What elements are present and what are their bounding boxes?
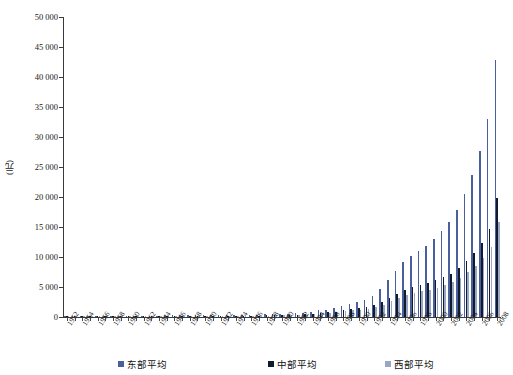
x-tick-mark xyxy=(105,318,106,321)
x-tick-mark xyxy=(213,318,214,321)
x-tick-mark xyxy=(489,318,490,321)
y-tick-label: 30 000 xyxy=(35,133,58,141)
y-tick-label: 0 xyxy=(54,313,58,321)
legend-item[interactable]: 东部平均 xyxy=(118,357,167,371)
x-tick-mark xyxy=(305,318,306,321)
y-tick-mark xyxy=(59,197,64,198)
x-tick-mark xyxy=(182,318,183,321)
y-tick-label: 15 000 xyxy=(35,223,58,231)
x-tick-mark xyxy=(367,318,368,321)
bar xyxy=(483,258,485,317)
x-tick-mark xyxy=(351,318,352,321)
plot-area xyxy=(63,17,501,317)
y-tick-mark xyxy=(59,107,64,108)
chart-legend: 东部平均中部平均西部平均 xyxy=(0,355,513,371)
y-tick-mark xyxy=(59,137,64,138)
x-tick-mark xyxy=(121,318,122,321)
y-tick-label: 25 000 xyxy=(35,163,58,171)
x-tick-mark xyxy=(443,318,444,321)
x-tick-mark xyxy=(197,318,198,321)
legend-label: 中部平均 xyxy=(277,357,317,371)
x-tick-mark xyxy=(382,318,383,321)
x-tick-mark xyxy=(320,318,321,321)
bar xyxy=(498,222,500,317)
y-tick-mark xyxy=(59,167,64,168)
legend-swatch-icon xyxy=(268,361,274,367)
x-tick-mark xyxy=(413,318,414,321)
x-tick-mark xyxy=(474,318,475,321)
y-tick-mark xyxy=(59,77,64,78)
x-tick-mark xyxy=(397,318,398,321)
x-tick-mark xyxy=(274,318,275,321)
legend-swatch-icon xyxy=(385,361,391,367)
bar xyxy=(467,272,469,317)
y-tick-label: 50 000 xyxy=(35,13,58,21)
y-tick-mark xyxy=(59,257,64,258)
legend-label: 西部平均 xyxy=(394,357,434,371)
x-tick-mark xyxy=(167,318,168,321)
x-tick-mark xyxy=(459,318,460,321)
y-tick-label: 40 000 xyxy=(35,73,58,81)
y-tick-mark xyxy=(59,317,64,318)
y-tick-label: 20 000 xyxy=(35,193,58,201)
legend-label: 东部平均 xyxy=(127,357,167,371)
x-tick-mark xyxy=(228,318,229,321)
bar xyxy=(452,282,454,317)
legend-item[interactable]: 西部平均 xyxy=(385,357,434,371)
x-tick-mark xyxy=(151,318,152,321)
bar xyxy=(475,266,477,317)
x-tick-mark xyxy=(428,318,429,321)
x-tick-mark xyxy=(336,318,337,321)
y-axis-ticks: 05 00010 00015 00020 00025 00030 00035 0… xyxy=(0,0,58,375)
x-tick-mark xyxy=(75,318,76,321)
x-tick-mark xyxy=(290,318,291,321)
bar xyxy=(437,288,439,317)
bar-chart: (元) 05 00010 00015 00020 00025 00030 000… xyxy=(0,0,513,375)
y-tick-label: 10 000 xyxy=(35,253,58,261)
y-tick-label: 45 000 xyxy=(35,43,58,51)
y-tick-mark xyxy=(59,287,64,288)
legend-swatch-icon xyxy=(118,361,124,367)
y-tick-mark xyxy=(59,17,64,18)
bar xyxy=(491,247,493,317)
y-tick-label: 5 000 xyxy=(39,283,58,291)
x-tick-mark xyxy=(136,318,137,321)
legend-item[interactable]: 中部平均 xyxy=(268,357,317,371)
x-tick-mark xyxy=(90,318,91,321)
y-tick-mark xyxy=(59,227,64,228)
y-tick-label: 35 000 xyxy=(35,103,58,111)
y-tick-mark xyxy=(59,47,64,48)
x-tick-mark xyxy=(244,318,245,321)
x-tick-mark xyxy=(259,318,260,321)
